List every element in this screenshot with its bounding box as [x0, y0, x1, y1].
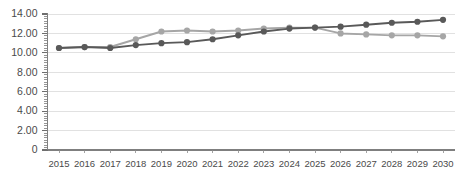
- line-chart: 14.0012.0010.008.006.004.002.000 2015201…: [0, 0, 462, 183]
- y-axis-tick-label: 6.00: [17, 85, 38, 97]
- y-axis-tick-label: 10.00: [11, 46, 37, 58]
- data-series: [56, 17, 446, 51]
- x-axis-tick-label: 2023: [253, 158, 274, 169]
- data-point-marker: [414, 19, 420, 25]
- x-axis-tick-label: 2029: [407, 158, 428, 169]
- data-point-marker: [158, 28, 164, 34]
- series-line: [59, 28, 443, 48]
- data-point-marker: [184, 39, 190, 45]
- data-point-marker: [184, 27, 190, 33]
- data-point-marker: [414, 32, 420, 38]
- chart-canvas: 14.0012.0010.008.006.004.002.000 2015201…: [0, 0, 462, 183]
- data-point-marker: [56, 45, 62, 51]
- y-axis-tick-label: 0: [32, 143, 38, 155]
- x-axis-tick-label: 2015: [48, 158, 69, 169]
- y-axis-tick-label: 4.00: [17, 104, 38, 116]
- x-axis-tick-label: 2016: [74, 158, 95, 169]
- gridlines: [48, 14, 456, 131]
- x-axis-tick-label: 2018: [125, 158, 146, 169]
- data-point-marker: [210, 36, 216, 42]
- y-axis-tick-label: 12.00: [11, 27, 37, 39]
- y-axis-tick-marks: [42, 14, 48, 150]
- x-axis-tick-label: 2025: [304, 158, 325, 169]
- data-point-marker: [286, 25, 292, 31]
- data-point-marker: [440, 17, 446, 23]
- y-axis-tick-label: 8.00: [17, 66, 38, 78]
- x-axis-tick-label: 2019: [151, 158, 172, 169]
- data-point-marker: [82, 44, 88, 50]
- y-axis-tick-label: 2.00: [17, 124, 38, 136]
- data-point-marker: [363, 31, 369, 37]
- data-point-marker: [389, 20, 395, 26]
- x-axis-tick-label: 2026: [330, 158, 351, 169]
- x-axis-tick-label: 2028: [381, 158, 402, 169]
- data-point-marker: [363, 22, 369, 28]
- data-point-marker: [312, 25, 318, 31]
- x-axis-tick-label: 2022: [228, 158, 249, 169]
- data-point-marker: [107, 45, 113, 51]
- series-line: [59, 20, 443, 48]
- data-point-marker: [133, 42, 139, 48]
- data-point-marker: [389, 32, 395, 38]
- x-axis-tick-label: 2020: [176, 158, 197, 169]
- data-point-marker: [210, 28, 216, 34]
- y-axis-tick-label: 14.00: [11, 7, 37, 19]
- data-point-marker: [261, 28, 267, 34]
- x-axis-tick-label: 2021: [202, 158, 223, 169]
- x-axis-tick-labels: 2015201620172018201920202021202220232024…: [48, 158, 453, 169]
- x-axis-tick-label: 2030: [432, 158, 453, 169]
- y-axis-tick-labels: 14.0012.0010.008.006.004.002.000: [11, 7, 37, 155]
- data-point-marker: [338, 24, 344, 30]
- data-point-marker: [158, 40, 164, 46]
- data-point-marker: [133, 36, 139, 42]
- x-axis-tick-label: 2017: [100, 158, 121, 169]
- data-point-marker: [338, 30, 344, 36]
- data-point-marker: [235, 32, 241, 38]
- x-axis-tick-label: 2027: [356, 158, 377, 169]
- data-point-marker: [440, 33, 446, 39]
- x-axis-tick-label: 2024: [279, 158, 300, 169]
